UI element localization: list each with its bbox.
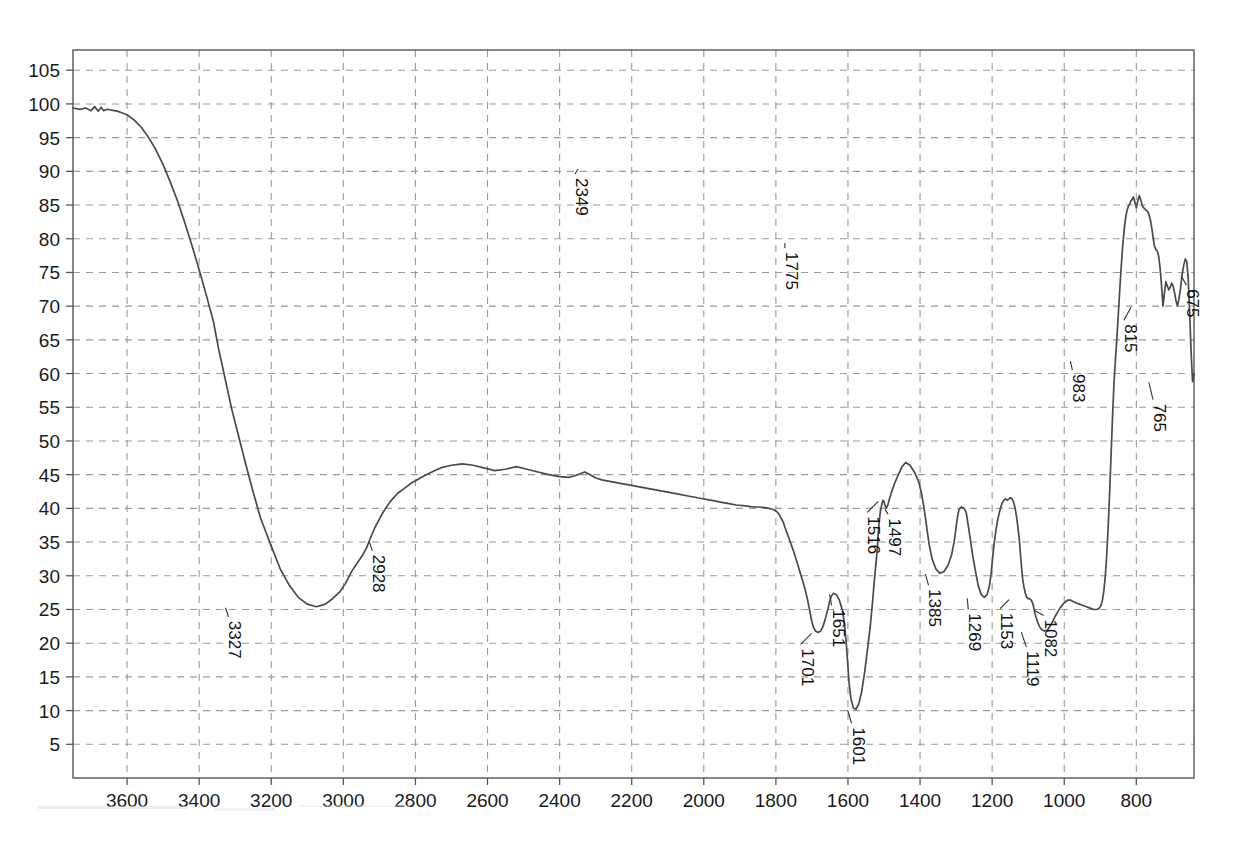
spectrum-canvas: 3600340032003000280026002400220020001800… xyxy=(0,0,1238,841)
peak-label-2349: 2349 xyxy=(572,178,591,216)
x-tick-label: 1200 xyxy=(971,790,1013,811)
x-tick-label: 2200 xyxy=(611,790,653,811)
y-tick-label: 90 xyxy=(39,161,60,182)
y-tick-label: 15 xyxy=(39,667,60,688)
y-tick-label: 65 xyxy=(39,330,60,351)
y-tick-label: 55 xyxy=(39,397,60,418)
peak-label-1269: 1269 xyxy=(965,613,984,651)
x-tick-label: 2600 xyxy=(466,790,508,811)
ir-spectrum-chart: 3600340032003000280026002400220020001800… xyxy=(0,0,1238,841)
peak-label-1497: 1497 xyxy=(885,518,904,556)
peak-label-1651: 1651 xyxy=(829,609,848,647)
peak-label-3327: 3327 xyxy=(225,621,244,659)
peak-label-983: 983 xyxy=(1069,374,1088,402)
chart-background xyxy=(0,0,1238,841)
peak-label-1601: 1601 xyxy=(849,727,868,765)
peak-label-1119: 1119 xyxy=(1023,651,1042,686)
peak-label-1385: 1385 xyxy=(925,589,944,627)
peak-label-765: 765 xyxy=(1150,404,1169,432)
peak-label-2928: 2928 xyxy=(369,555,388,593)
x-tick-label: 2400 xyxy=(538,790,580,811)
y-tick-label: 60 xyxy=(39,364,60,385)
peak-label-1775: 1775 xyxy=(782,252,801,290)
y-tick-label: 80 xyxy=(39,229,60,250)
peak-label-1701: 1701 xyxy=(798,648,817,686)
y-tick-label: 40 xyxy=(39,498,60,519)
y-tick-label: 25 xyxy=(39,599,60,620)
y-tick-label: 75 xyxy=(39,262,60,283)
peak-label-1516: 1516 xyxy=(864,516,883,554)
y-tick-label: 10 xyxy=(39,701,60,722)
y-tick-label: 45 xyxy=(39,465,60,486)
peak-label-675: 675 xyxy=(1183,289,1202,317)
x-tick-label: 2000 xyxy=(683,790,725,811)
x-tick-label: 1800 xyxy=(755,790,797,811)
y-tick-label: 70 xyxy=(39,296,60,317)
y-tick-label: 95 xyxy=(39,128,60,149)
x-tick-label: 3200 xyxy=(250,790,292,811)
y-tick-label: 105 xyxy=(28,60,60,81)
y-tick-label: 85 xyxy=(39,195,60,216)
peak-label-815: 815 xyxy=(1121,324,1140,352)
peak-label-1153: 1153 xyxy=(997,613,1016,650)
x-tick-label: 1400 xyxy=(899,790,941,811)
x-tick-label: 2800 xyxy=(394,790,436,811)
y-tick-label: 50 xyxy=(39,431,60,452)
y-tick-label: 20 xyxy=(39,633,60,654)
y-tick-label: 30 xyxy=(39,566,60,587)
y-tick-label: 100 xyxy=(28,94,60,115)
y-tick-label: 35 xyxy=(39,532,60,553)
y-tick-label: 5 xyxy=(49,734,60,755)
x-tick-label: 3000 xyxy=(322,790,364,811)
x-tick-label: 1000 xyxy=(1043,790,1085,811)
peak-label-1082: 1082 xyxy=(1041,619,1060,657)
x-tick-label: 1600 xyxy=(827,790,869,811)
x-tick-label: 800 xyxy=(1120,790,1152,811)
